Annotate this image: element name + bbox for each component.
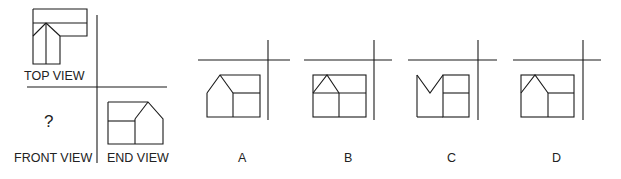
- end-view-drawing: [108, 102, 163, 144]
- end-view-label: END VIEW: [107, 152, 169, 165]
- unknown-front-view-mark: ?: [44, 113, 53, 130]
- option-b-label[interactable]: B: [344, 152, 352, 165]
- main-axes: [27, 15, 167, 163]
- orthographic-views-diagram: [0, 0, 621, 179]
- top-view-drawing: [33, 9, 87, 64]
- option-a-drawing[interactable]: [198, 40, 290, 120]
- top-view-label: TOP VIEW: [24, 70, 85, 83]
- option-c-label[interactable]: C: [447, 152, 456, 165]
- option-d-label[interactable]: D: [552, 152, 561, 165]
- option-c-drawing[interactable]: [408, 40, 497, 120]
- option-d-drawing[interactable]: [513, 40, 601, 120]
- option-a-label[interactable]: A: [238, 152, 246, 165]
- front-view-label: FRONT VIEW: [14, 152, 92, 165]
- option-b-drawing[interactable]: [304, 40, 392, 120]
